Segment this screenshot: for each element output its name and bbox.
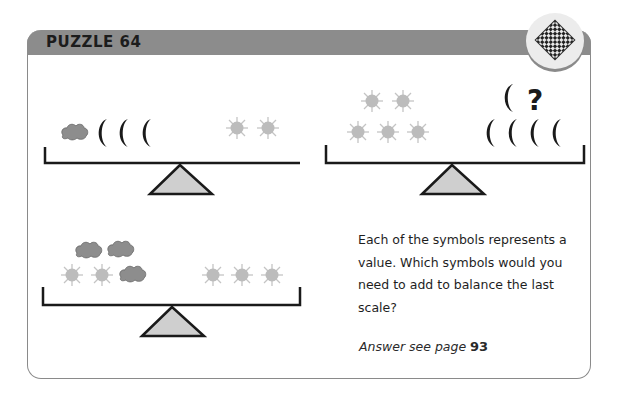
- sun-icon: [361, 90, 383, 112]
- sun-icon: [226, 117, 248, 139]
- moon-icon: [99, 119, 107, 147]
- cloud-icon: [76, 242, 102, 258]
- moon-icon: [505, 84, 513, 112]
- sun-icon: [261, 264, 283, 286]
- cloud-icon: [120, 266, 146, 282]
- scale-2: ?: [326, 84, 584, 194]
- cloud-icon: [62, 124, 88, 140]
- question-mark: ?: [527, 84, 543, 117]
- moon-icon: [143, 119, 151, 147]
- sun-icon: [202, 264, 224, 286]
- sun-icon: [347, 121, 369, 143]
- moon-icon: [531, 119, 539, 147]
- moon-icon: [487, 119, 495, 147]
- sun-icon: [257, 117, 279, 139]
- answer-prefix: Answer see page: [359, 339, 470, 354]
- sun-icon: [61, 264, 83, 286]
- sun-icon: [91, 264, 113, 286]
- sun-icon: [392, 90, 414, 112]
- scale-1: [45, 117, 300, 194]
- answer-page-number: 93: [470, 339, 488, 354]
- puzzle-question: Each of the symbols represents a value. …: [358, 229, 588, 319]
- scale-3: [43, 241, 300, 336]
- sun-icon: [377, 121, 399, 143]
- moon-icon: [509, 119, 517, 147]
- moon-icon: [553, 119, 561, 147]
- cloud-icon: [108, 241, 134, 257]
- answer-reference: Answer see page 93: [359, 339, 488, 354]
- moon-icon: [120, 119, 128, 147]
- sun-icon: [407, 121, 429, 143]
- sun-icon: [231, 264, 253, 286]
- scales-illustration: ?: [0, 0, 623, 406]
